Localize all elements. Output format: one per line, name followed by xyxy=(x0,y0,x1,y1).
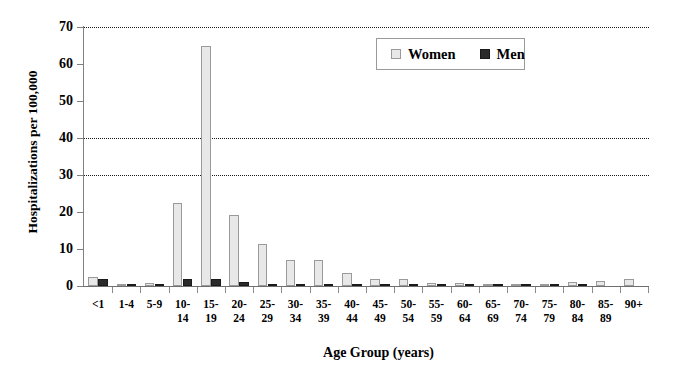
bar-women xyxy=(88,277,98,286)
x-tick-mark xyxy=(169,287,170,293)
bar-women xyxy=(568,282,578,286)
bar-women xyxy=(286,260,296,286)
bar-men xyxy=(155,284,165,286)
bar-men xyxy=(296,284,306,286)
x-tick-label: 90+ xyxy=(616,298,652,312)
legend: Women Men xyxy=(376,38,525,70)
bar-women xyxy=(427,283,437,286)
x-tick-mark xyxy=(140,287,141,293)
y-tick-label: 70 xyxy=(39,20,73,34)
bar-women xyxy=(229,215,239,286)
bar-men xyxy=(268,284,278,286)
bar-men xyxy=(324,284,334,286)
y-tick-label: 60 xyxy=(39,57,73,71)
bar-women xyxy=(596,281,606,286)
bar-men xyxy=(380,284,390,286)
x-tick-mark xyxy=(338,287,339,293)
bar-women xyxy=(145,283,155,286)
bar-men xyxy=(437,284,447,286)
x-tick-mark xyxy=(310,287,311,293)
y-tick-label: 20 xyxy=(39,205,73,219)
bar-women xyxy=(540,284,550,286)
x-tick-mark xyxy=(648,287,649,293)
y-axis-tick-labels: 010203040506070 xyxy=(28,0,73,380)
y-tick-mark xyxy=(77,175,83,176)
x-tick-mark xyxy=(422,287,423,293)
x-tick-mark xyxy=(253,287,254,293)
y-tick-mark xyxy=(77,286,83,287)
y-tick-label: 10 xyxy=(39,242,73,256)
bar-men xyxy=(550,284,560,286)
bar-men xyxy=(409,284,419,286)
bar-women xyxy=(624,279,634,286)
x-tick-mark xyxy=(225,287,226,293)
gridline xyxy=(84,175,649,176)
y-tick-mark xyxy=(77,212,83,213)
x-tick-mark xyxy=(281,287,282,293)
x-tick-mark xyxy=(394,287,395,293)
bar-men xyxy=(521,284,531,286)
x-tick-mark xyxy=(592,287,593,293)
gridline xyxy=(84,138,649,139)
legend-swatch-men-icon xyxy=(480,49,490,59)
legend-label-men: Men xyxy=(497,47,525,61)
y-tick-mark xyxy=(77,101,83,102)
x-axis-title-text: Age Group (years) xyxy=(323,345,434,361)
bar-women xyxy=(342,273,352,286)
y-tick-label: 30 xyxy=(39,168,73,182)
bar-men xyxy=(239,282,249,286)
y-tick-label: 0 xyxy=(39,279,73,293)
y-tick-label: 40 xyxy=(39,131,73,145)
x-tick-mark xyxy=(507,287,508,293)
bar-men xyxy=(183,279,193,286)
bar-women xyxy=(511,284,521,286)
bar-women xyxy=(314,260,324,286)
bar-men xyxy=(211,279,221,286)
y-axis-line xyxy=(83,26,84,287)
x-tick-mark xyxy=(112,287,113,293)
x-tick-mark xyxy=(451,287,452,293)
x-tick-mark xyxy=(535,287,536,293)
bar-men xyxy=(127,284,137,286)
legend-item-women: Women xyxy=(391,47,456,61)
y-tick-mark xyxy=(77,138,83,139)
bar-women xyxy=(258,244,268,286)
y-tick-mark xyxy=(77,249,83,250)
legend-label-women: Women xyxy=(408,47,456,61)
bar-chart: Hospitalizations per 100,000 01020304050… xyxy=(0,0,673,380)
bar-women xyxy=(173,203,183,286)
y-tick-mark xyxy=(77,64,83,65)
bar-men xyxy=(578,284,588,286)
bar-men xyxy=(352,284,362,286)
bar-women xyxy=(399,279,409,286)
bar-women xyxy=(117,284,127,286)
x-axis-title: Age Group (years) xyxy=(0,345,673,361)
y-tick-mark xyxy=(77,27,83,28)
x-tick-mark xyxy=(563,287,564,293)
x-tick-mark xyxy=(620,287,621,293)
legend-item-men: Men xyxy=(480,47,525,61)
bar-women xyxy=(370,279,380,286)
bar-men xyxy=(493,284,503,286)
bar-women xyxy=(483,284,493,286)
x-tick-mark xyxy=(197,287,198,293)
bar-women xyxy=(201,46,211,287)
gridline xyxy=(84,27,649,28)
bar-men xyxy=(98,279,108,286)
y-tick-label: 50 xyxy=(39,94,73,108)
legend-swatch-women-icon xyxy=(391,49,401,59)
x-tick-mark xyxy=(479,287,480,293)
bar-women xyxy=(455,283,465,286)
x-tick-mark xyxy=(366,287,367,293)
bar-men xyxy=(465,284,475,286)
